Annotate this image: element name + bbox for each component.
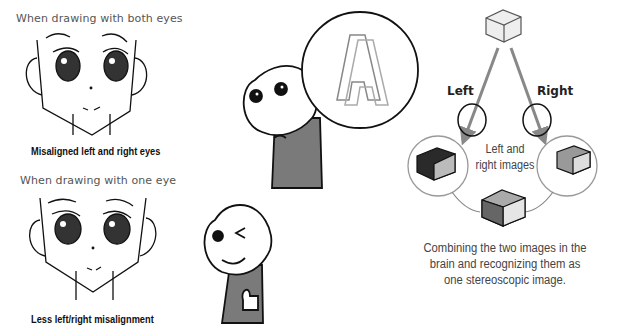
source-cube xyxy=(486,10,521,42)
bottom-heading: When drawing with one eye xyxy=(20,174,176,187)
right-eye-label: Right xyxy=(537,84,573,98)
combined-cube xyxy=(482,190,525,226)
anime-face-one-eye xyxy=(30,198,156,300)
top-caption: Misaligned left and right eyes xyxy=(31,145,160,157)
top-heading: When drawing with both eyes xyxy=(16,12,183,25)
anime-face-both-eyes xyxy=(26,34,146,135)
center-label: Left and right images xyxy=(460,141,550,173)
left-eye-label: Left xyxy=(447,84,474,98)
bottom-caption: Less left/right misalignment xyxy=(31,313,154,325)
center-label-line2: right images xyxy=(460,157,550,173)
description-line2: brain and recognizing them as xyxy=(411,256,600,272)
sight-lines xyxy=(465,48,543,137)
description-line3: one stereoscopic image. xyxy=(411,272,600,288)
speech-bubble xyxy=(302,12,418,128)
center-label-line1: Left and xyxy=(460,141,550,157)
description: Combining the two images in the brain an… xyxy=(411,240,600,288)
description-line1: Combining the two images in the xyxy=(411,240,600,256)
winking-character xyxy=(205,205,272,323)
